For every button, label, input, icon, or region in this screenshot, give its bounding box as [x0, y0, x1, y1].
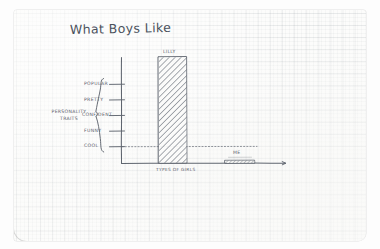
chart-vector-drawing	[14, 10, 366, 241]
chart-title: What Boys Like	[70, 20, 172, 37]
y-tick-label-cool: COOL	[84, 143, 98, 148]
bar-lilly-fill	[159, 57, 187, 163]
bar-me-fill	[225, 161, 254, 163]
y-tick-label-funny: FUNNY	[84, 128, 101, 133]
y-tick-label-popular: POPULAR	[84, 81, 108, 86]
bar-label-me: ME	[233, 150, 240, 155]
y-axis-group-label-line1: PERSONALITY	[43, 109, 95, 115]
y-tick-label-pretty: PRETTY	[84, 97, 103, 102]
bar-label-lilly: LILLY	[163, 49, 176, 54]
graph-paper-sheet: What Boys Like POPULAR PRETTY CONFIDENT …	[14, 10, 366, 241]
chart-ink-layer: What Boys Like POPULAR PRETTY CONFIDENT …	[14, 10, 366, 241]
screenshot-canvas: What Boys Like POPULAR PRETTY CONFIDENT …	[0, 0, 380, 249]
y-axis-group-label-line2: TRAITS	[43, 116, 95, 122]
x-axis-label: TYPES OF GIRLS	[156, 167, 195, 172]
